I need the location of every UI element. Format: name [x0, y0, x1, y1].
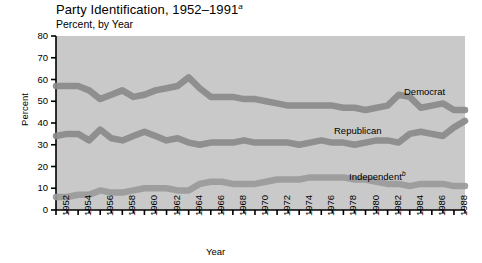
x-tick-label: 1966 — [215, 195, 226, 216]
x-tick-label: 1986 — [436, 195, 447, 216]
series-label-independent: Independentb — [349, 170, 406, 182]
series-label-text: Independent — [349, 171, 402, 182]
x-tick-label: 1960 — [148, 195, 159, 216]
x-tick-label: 1958 — [126, 195, 137, 216]
y-tick-label: 10 — [28, 182, 48, 193]
x-tick-label: 1968 — [237, 195, 248, 216]
x-tick-label: 1964 — [193, 195, 204, 216]
series-label-text: Democrat — [404, 86, 445, 97]
y-tick-label: 30 — [28, 139, 48, 150]
y-tick-label: 50 — [28, 95, 48, 106]
x-tick-label: 1988 — [458, 195, 469, 216]
x-tick-label: 1978 — [347, 195, 358, 216]
y-tick-label: 20 — [28, 161, 48, 172]
x-tick-label: 1970 — [259, 195, 270, 216]
y-tick-label: 60 — [28, 74, 48, 85]
x-tick-label: 1972 — [281, 195, 292, 216]
chart-plot-svg — [0, 0, 482, 263]
series-label-footnote-marker: b — [402, 170, 406, 177]
series-label-republican: Republican — [334, 125, 382, 136]
x-tick-label: 1962 — [171, 195, 182, 216]
x-tick-label: 1976 — [325, 195, 336, 216]
x-tick-label: 1982 — [392, 195, 403, 216]
x-tick-label: 1980 — [370, 195, 381, 216]
series-label-text: Republican — [334, 125, 382, 136]
x-tick-label: 1956 — [104, 195, 115, 216]
chart-figure: Party Identification, 1952–1991a Percent… — [0, 0, 482, 263]
x-tick-label: 1954 — [82, 195, 93, 216]
y-tick-label: 40 — [28, 117, 48, 128]
x-tick-label: 1952 — [60, 195, 71, 216]
y-tick-label: 70 — [28, 52, 48, 63]
y-tick-label: 80 — [28, 30, 48, 41]
series-label-democrat: Democrat — [404, 86, 445, 97]
y-tick-label: 0 — [28, 204, 48, 215]
x-tick-label: 1974 — [303, 195, 314, 216]
x-tick-label: 1984 — [414, 195, 425, 216]
